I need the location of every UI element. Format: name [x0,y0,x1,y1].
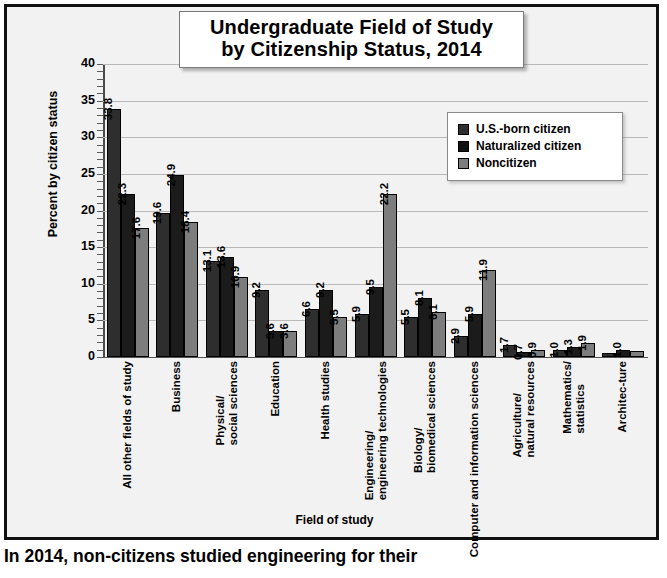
figure-caption: In 2014, non-citizens studied engineerin… [4,546,659,576]
x-category: Physical/social sciences [202,361,252,511]
bar-value-label: 8.1 [413,290,425,306]
bar-value-label: 24.9 [165,163,177,185]
bar-group: 2.95.911.9 [450,64,500,357]
legend-item[interactable]: U.S.-born citizen [458,122,614,136]
chart-title: Undergraduate Field of Study by Citizens… [179,11,524,68]
x-category-label: Biology/biomedical sciences [412,361,438,473]
y-tick-label: 35 [55,93,95,107]
bar[interactable] [630,351,644,357]
x-category-label: Physical/social sciences [214,361,240,445]
bar-value-label: 33.8 [102,98,114,120]
bar-value-label: 1.3 [562,339,574,355]
bar-group: 5.99.522.2 [351,64,401,357]
bar[interactable]: 13.1 [206,261,220,357]
legend-label: Naturalized citizen [476,139,581,153]
x-category: All other fields of study [103,361,153,511]
bar-value-label: 6.1 [427,304,439,320]
x-category: Engineering/engineering technologies [351,361,401,511]
bar[interactable]: 33.8 [107,109,121,357]
bar[interactable]: 11.9 [482,270,496,357]
bar-value-label: 10.9 [229,266,241,288]
x-category-label: All other fields of study [121,361,134,489]
bar[interactable]: 24.9 [170,175,184,357]
bar-value-label: 17.6 [130,217,142,239]
bar[interactable]: 5.5 [404,317,418,357]
bar-value-label: 0.7 [512,344,524,360]
gridline [103,357,648,358]
bar-value-label: 0.9 [526,342,538,358]
bar[interactable]: 18.4 [184,222,198,357]
bar-value-label: 22.3 [116,182,128,204]
bar-group: 6.69.25.5 [301,64,351,357]
legend-item[interactable]: Naturalized citizen [458,139,614,153]
bar[interactable]: 10.9 [234,277,248,357]
y-tick-label: 0 [55,349,95,363]
bar-groups: 33.822.317.619.624.918.413.113.610.99.23… [103,64,648,357]
bar-value-label: 1.0 [548,342,560,358]
bar-value-label: 1.0 [611,342,623,358]
bar[interactable]: 6.6 [305,309,319,357]
x-category: Education [252,361,302,511]
x-category-label: Computer and information sciences [468,361,481,557]
bar-value-label: 2.9 [449,328,461,344]
bar[interactable]: 9.5 [369,287,383,357]
bar[interactable]: 17.6 [135,228,149,357]
legend-swatch-icon [458,158,469,169]
bar-value-label: 9.2 [250,282,262,298]
legend-label: Noncitizen [476,156,537,170]
x-category-label: Health studies [319,361,332,440]
legend-item[interactable]: Noncitizen [458,156,614,170]
x-category-label: Education [270,361,283,417]
bar[interactable]: 22.2 [383,194,397,357]
x-category: Health studies [301,361,351,511]
bar-value-label: 1.7 [498,337,510,353]
y-tick-label: 5 [55,312,95,326]
bar[interactable]: 3.6 [283,331,297,357]
bar-group: 9.23.63.6 [252,64,302,357]
bar-value-label: 11.9 [477,259,489,281]
plot-area: 33.822.317.619.624.918.413.113.610.99.23… [103,64,648,357]
y-tick-label: 25 [55,166,95,180]
y-tick-label: 15 [55,239,95,253]
bar[interactable]: 1.0 [616,350,630,357]
x-category: Business [153,361,203,511]
figure-frame: Percent by citizen status 40353025201510… [4,4,659,540]
bar[interactable]: 2.9 [454,336,468,357]
x-category-label: Mathematics/statistics [560,361,586,434]
legend-swatch-icon [458,141,469,152]
bar-group: 5.58.16.1 [400,64,450,357]
bar-group: 19.624.918.4 [153,64,203,357]
bar-value-label: 18.4 [179,211,191,233]
x-category-label: Architec-ture [617,361,630,433]
bar-group: 1.01.31.9 [549,64,599,357]
y-axis-ticks: 4035302520151050 [49,64,95,357]
bar-value-label: 13.1 [201,250,213,272]
x-category: Agriculture/natural resources [499,361,549,511]
x-category: Biology/biomedical sciences [400,361,450,511]
bar-value-label: 5.9 [350,306,362,322]
bar[interactable]: 1.9 [581,343,595,357]
bar-value-label: 13.6 [215,246,227,268]
x-category-label: Business [171,361,184,412]
bar-group: 33.822.317.6 [103,64,153,357]
bar-value-label: 1.9 [576,335,588,351]
bar-value-label: 22.2 [378,183,390,205]
bar[interactable]: 6.1 [432,312,446,357]
x-category-label: Engineering/engineering technologies [362,361,388,500]
x-category: Mathematics/statistics [549,361,599,511]
bar[interactable]: 0.9 [531,350,545,357]
bar[interactable]: 5.9 [355,314,369,357]
y-tick-label: 10 [55,276,95,290]
bar-value-label: 3.6 [264,323,276,339]
x-axis-title: Field of study [7,513,662,527]
x-category-label: Agriculture/natural resources [511,361,537,458]
bar-value-label: 19.6 [151,202,163,224]
bar[interactable]: 5.9 [468,314,482,357]
bar-value-label: 5.9 [463,306,475,322]
bar-value-label: 9.5 [364,279,376,295]
x-axis-category-labels: All other fields of studyBusinessPhysica… [103,361,648,511]
bar[interactable]: 5.5 [333,317,347,357]
bar[interactable]: 19.6 [156,213,170,357]
y-tick-label: 40 [55,56,95,70]
bar-value-label: 3.6 [278,323,290,339]
